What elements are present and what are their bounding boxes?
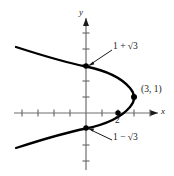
y-axis-arrowhead bbox=[83, 18, 89, 26]
leader-lower-intercept bbox=[87, 128, 112, 140]
x-axis-label: x bbox=[161, 107, 165, 116]
leader-upper-intercept bbox=[88, 50, 112, 66]
upper-intercept-label: 1 + √3 bbox=[113, 42, 138, 52]
point-y-intercept-lower bbox=[83, 125, 88, 130]
x-intercept-tick-label: 2 bbox=[115, 116, 120, 126]
x-axis-arrowhead bbox=[150, 110, 158, 116]
point-vertex bbox=[131, 94, 137, 100]
y-axis-label: y bbox=[79, 8, 83, 17]
vertex-label: (3, 1) bbox=[141, 85, 162, 95]
lower-intercept-label: 1 − √3 bbox=[113, 133, 138, 143]
parabola-figure: x y 1 + √3 1 − √3 (3, 1) 2 bbox=[0, 0, 174, 176]
point-y-intercept-upper bbox=[83, 63, 88, 68]
